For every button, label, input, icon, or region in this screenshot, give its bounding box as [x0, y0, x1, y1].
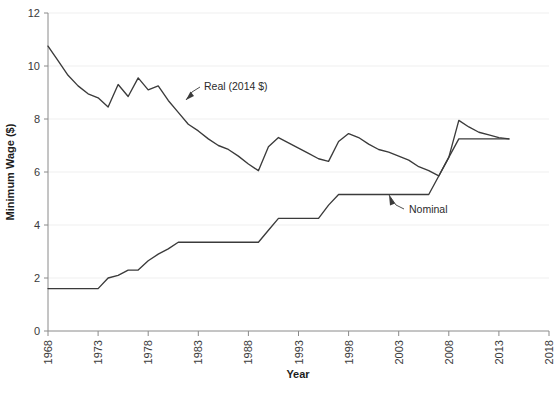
chart-container: 024681012 196819731978198319881993199820…	[0, 0, 559, 395]
y-tick-label-10: 10	[28, 60, 40, 72]
x-tick-label-2003: 2003	[393, 340, 405, 364]
nominal-annotation: Nominal	[389, 195, 448, 215]
x-tick-label-1998: 1998	[343, 340, 355, 364]
x-tick-label-1983: 1983	[192, 340, 204, 364]
x-axis-ticks-group: 1968197319781983198819931998200320082013…	[42, 331, 555, 364]
x-tick-label-2013: 2013	[493, 340, 505, 364]
x-tick-label-1978: 1978	[142, 340, 154, 364]
series-group	[48, 46, 509, 288]
y-tick-label-2: 2	[34, 272, 40, 284]
nominal-annotation-arrowhead	[389, 195, 395, 206]
y-tick-label-12: 12	[28, 7, 40, 19]
minimum-wage-line-chart: 024681012 196819731978198319881993199820…	[0, 0, 559, 395]
x-tick-label-1973: 1973	[92, 340, 104, 364]
real-annotation-arrowhead	[186, 92, 194, 101]
x-tick-label-1968: 1968	[42, 340, 54, 364]
real-annotation-label: Real (2014 $)	[204, 80, 268, 92]
y-axis-ticks-group: 024681012	[28, 7, 48, 337]
y-tick-label-4: 4	[34, 219, 40, 231]
y-axis-title: Minimum Wage ($)	[4, 123, 16, 220]
nominal-annotation-label: Nominal	[409, 203, 448, 215]
x-tick-label-2008: 2008	[443, 340, 455, 364]
real-annotation: Real (2014 $)	[186, 80, 268, 100]
x-tick-label-1993: 1993	[293, 340, 305, 364]
x-tick-label-2018: 2018	[543, 340, 555, 364]
y-tick-label-6: 6	[34, 166, 40, 178]
cropped-caption-ghost	[2, 386, 302, 395]
x-tick-label-1988: 1988	[242, 340, 254, 364]
y-tick-label-8: 8	[34, 113, 40, 125]
gridlines-group	[48, 13, 549, 278]
y-tick-label-0: 0	[34, 325, 40, 337]
x-axis-title: Year	[286, 368, 310, 380]
